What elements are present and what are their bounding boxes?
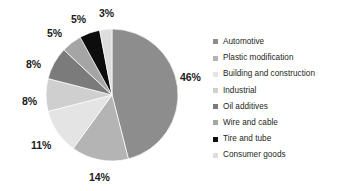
- legend-swatch-icon: [213, 56, 218, 61]
- slice-value-label: 8%: [26, 59, 41, 70]
- pie-slices-group: [46, 29, 178, 161]
- legend-item-label: Wire and cable: [223, 115, 278, 131]
- legend-item-label: Plastic modification: [223, 50, 293, 66]
- legend-swatch-icon: [213, 39, 218, 44]
- pie-chart: 46%14%11%8%8%5%5%3% AutomotivePlastic mo…: [0, 0, 344, 191]
- legend-item[interactable]: Industrial: [213, 83, 344, 99]
- pie-plot-area: 46%14%11%8%8%5%5%3%: [0, 0, 208, 191]
- legend-item[interactable]: Building and construction: [213, 66, 344, 82]
- legend-item[interactable]: Oil additives: [213, 99, 344, 115]
- legend-item[interactable]: Consumer goods: [213, 147, 344, 163]
- legend-item-label: Automotive: [223, 34, 264, 50]
- slice-value-label: 5%: [47, 28, 62, 39]
- slice-value-label: 46%: [180, 72, 201, 83]
- legend-item[interactable]: Automotive: [213, 34, 344, 50]
- legend-swatch-icon: [213, 137, 218, 142]
- legend-item-label: Tire and tube: [223, 131, 271, 147]
- legend-swatch-icon: [213, 72, 218, 77]
- legend-item-label: Industrial: [223, 83, 256, 99]
- legend-swatch-icon: [213, 104, 218, 109]
- legend-swatch-icon: [213, 88, 218, 93]
- legend-item-label: Oil additives: [223, 99, 268, 115]
- legend-item-label: Consumer goods: [223, 147, 286, 163]
- legend-swatch-icon: [213, 153, 218, 158]
- legend-item[interactable]: Wire and cable: [213, 115, 344, 131]
- slice-value-label: 11%: [31, 140, 51, 151]
- legend-item[interactable]: Plastic modification: [213, 50, 344, 66]
- legend-swatch-icon: [213, 120, 218, 125]
- legend-item[interactable]: Tire and tube: [213, 131, 344, 147]
- chart-legend: AutomotivePlastic modificationBuilding a…: [213, 34, 344, 164]
- slice-value-label: 5%: [71, 14, 86, 25]
- slice-value-label: 3%: [99, 8, 114, 19]
- legend-item-label: Building and construction: [223, 66, 315, 82]
- slice-value-label: 14%: [89, 172, 110, 183]
- slice-value-label: 8%: [22, 96, 37, 107]
